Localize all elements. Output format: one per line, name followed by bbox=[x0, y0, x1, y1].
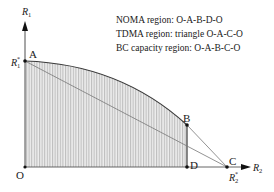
legend-noma: NOMA region: O-A-B-D-O bbox=[116, 15, 223, 25]
x-axis-arrow-icon bbox=[241, 164, 251, 170]
point-a-marker bbox=[23, 59, 27, 63]
point-a-label: A bbox=[29, 48, 37, 60]
point-d-marker bbox=[185, 165, 189, 169]
point-o-label: O bbox=[16, 169, 24, 181]
y-axis-label: R1 bbox=[21, 6, 31, 18]
x-intercept-label: R*2 bbox=[228, 171, 238, 184]
point-c-label: C bbox=[229, 155, 236, 167]
y-axis-arrow-icon bbox=[22, 21, 28, 31]
capacity-region-diagram: A B D C O R1 R2 R*1 R*2 NOMA region: O-A… bbox=[0, 0, 274, 192]
legend-tdma: TDMA region: triangle O-A-C-O bbox=[116, 29, 243, 39]
x-axis-label: R2 bbox=[252, 162, 262, 174]
point-d-label: D bbox=[190, 159, 198, 171]
legend-bc: BC capacity region: O-A-B-C-O bbox=[116, 43, 240, 53]
point-b-label: B bbox=[183, 112, 190, 124]
y-intercept-label: R*1 bbox=[10, 56, 20, 69]
noma-region bbox=[25, 61, 187, 167]
